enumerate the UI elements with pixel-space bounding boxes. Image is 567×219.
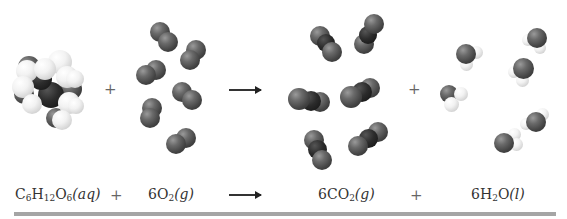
carbon-dioxide-molecule-model (340, 78, 382, 110)
plus-sign-equation-2: + (410, 186, 423, 204)
state-label: (g) (355, 186, 375, 202)
oxygen-molecule-model (166, 128, 198, 156)
water-molecule-model (494, 128, 526, 156)
water-molecule-model (522, 28, 552, 54)
water-molecule-model (508, 58, 538, 88)
coefficient: 6 (148, 186, 157, 202)
carbon-dioxide-molecule-model (348, 122, 390, 158)
coefficient: 6 (471, 186, 480, 202)
oxygen-molecule-model (172, 82, 204, 112)
element-o: O (157, 186, 168, 202)
oxygen-formula: 6O2(g) (148, 186, 194, 203)
carbon-dioxide-molecule-model (352, 14, 386, 54)
plus-sign-model-2: + (408, 80, 421, 98)
glucose-molecule-model (12, 48, 84, 128)
state-label: (l) (509, 186, 524, 202)
carbon-dioxide-molecule-model (288, 88, 330, 114)
bottom-divider-bar (14, 212, 556, 216)
element-c: C (15, 186, 26, 202)
water-molecule-model (440, 85, 472, 115)
plus-sign-equation-1: + (110, 186, 123, 204)
element-h: H (480, 186, 492, 202)
element-co: CO (327, 186, 349, 202)
reaction-arrow-equation (229, 194, 261, 196)
element-o: O (55, 186, 66, 202)
oxygen-molecule-model (180, 40, 208, 72)
element-o: O (498, 186, 509, 202)
state-label: (g) (174, 186, 194, 202)
coefficient: 6 (318, 186, 327, 202)
carbon-dioxide-molecule-model (310, 26, 346, 66)
oxygen-molecule-model (150, 22, 180, 52)
carbon-dioxide-molecule-model (304, 130, 336, 172)
oxygen-molecule-model (136, 60, 170, 86)
water-molecule-model (456, 44, 486, 72)
water-formula: 6H2O(l) (471, 186, 525, 203)
state-label: (aq) (72, 186, 100, 202)
reaction-arrow-model (229, 89, 261, 91)
plus-sign-model-1: + (104, 80, 117, 98)
carbon-dioxide-formula: 6CO2(g) (318, 186, 375, 203)
oxygen-molecule-model (140, 98, 166, 130)
subscript: 12 (44, 193, 55, 203)
glucose-formula: C6H12O6(aq) (15, 186, 101, 203)
element-h: H (31, 186, 43, 202)
